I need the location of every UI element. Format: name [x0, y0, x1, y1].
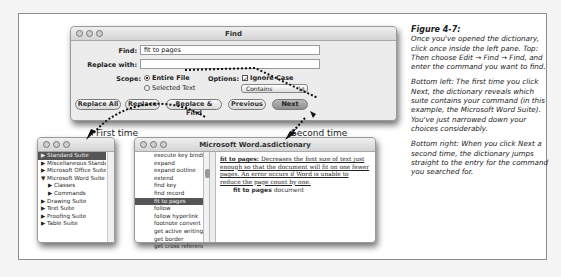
command-item[interactable]: get active writing s: [135, 228, 203, 236]
command-item[interactable]: find record: [135, 190, 203, 198]
caption-title: Figure 4-7:: [411, 25, 551, 34]
command-signature: fit to pages document: [233, 186, 304, 193]
zoom-icon[interactable]: [96, 30, 103, 37]
dictionary-entry: fit to pages: Decreases the font size of…: [220, 155, 370, 186]
dict-titlebar: Microsoft Word.asdictionary: [135, 138, 375, 152]
callout-first-time: First time: [96, 128, 138, 138]
suite-item[interactable]: ▼ Microsoft Word Suite: [38, 175, 106, 183]
zoom-icon[interactable]: [160, 141, 167, 148]
suite-item[interactable]: ▶ Text Suite: [38, 205, 106, 213]
command-list: execute key binding expand expand outlin…: [135, 152, 203, 242]
suite-item[interactable]: ▶ Proofing Suite: [38, 213, 106, 221]
previous-button[interactable]: Previous: [228, 99, 266, 110]
replace-label: Replace with:: [75, 61, 137, 69]
find-input[interactable]: fit to pages: [140, 45, 320, 55]
close-icon[interactable]: [76, 30, 83, 37]
suite-item[interactable]: ▶ Miscellaneous Standards: [38, 160, 106, 168]
zoom-icon[interactable]: [63, 141, 70, 148]
caption-paragraph: Bottom right: When you click Next a seco…: [411, 139, 551, 176]
dictionary-window: Microsoft Word.asdictionary execute key …: [134, 137, 376, 243]
radio-off-icon: [144, 85, 150, 91]
suite-titlebar: [38, 138, 114, 152]
radio-on-icon: [144, 75, 150, 81]
command-item[interactable]: follow: [135, 205, 203, 213]
figure-caption: Figure 4-7: Once you've opened the dicti…: [411, 25, 551, 182]
popup-arrows-icon: ⇕: [299, 86, 306, 92]
suite-item[interactable]: ▶ Classes: [38, 182, 106, 190]
command-item-selected[interactable]: fit to pages: [135, 198, 203, 206]
options-label: Options:: [199, 75, 239, 83]
command-scrollbar[interactable]: [203, 152, 210, 242]
callout-second-time: Second time: [291, 128, 347, 138]
caption-paragraph: Once you've opened the dictionary, click…: [411, 34, 551, 71]
command-item[interactable]: extend: [135, 175, 203, 183]
scope-selected-text[interactable]: Selected Text: [144, 84, 195, 92]
scope-label: Scope:: [111, 75, 141, 83]
checkmark-icon: ✓: [242, 75, 248, 81]
replace-button[interactable]: Replace: [125, 99, 160, 110]
replace-and-find-button[interactable]: Replace & Find: [166, 99, 222, 110]
command-item[interactable]: expand outline: [135, 167, 203, 175]
command-item[interactable]: get cross reference: [135, 243, 203, 251]
minimize-icon[interactable]: [53, 141, 60, 148]
minimize-icon[interactable]: [86, 30, 93, 37]
ignore-case-checkbox[interactable]: ✓Ignore Case: [242, 74, 293, 82]
find-dialog: Find Find: fit to pages Replace with: Sc…: [70, 26, 397, 121]
dict-title: Microsoft Word.asdictionary: [199, 141, 311, 149]
scope-entire-file[interactable]: Entire File: [144, 74, 190, 82]
command-item[interactable]: follow hyperlink: [135, 213, 203, 221]
pane-splitter[interactable]: [210, 152, 216, 242]
close-icon[interactable]: [43, 141, 50, 148]
replace-all-button[interactable]: Replace All: [75, 99, 121, 110]
next-button[interactable]: Next: [272, 99, 308, 110]
suite-item[interactable]: ▶ Table Suite: [38, 220, 106, 228]
find-title: Find: [225, 30, 242, 38]
command-item[interactable]: execute key binding: [135, 152, 203, 160]
suite-item[interactable]: ▶ Drawing Suite: [38, 198, 106, 206]
command-item[interactable]: get border: [135, 236, 203, 244]
suite-window: ▶ Standard Suite ▶ Miscellaneous Standar…: [37, 137, 115, 243]
replace-input[interactable]: [140, 59, 320, 69]
suite-splitter[interactable]: [107, 152, 114, 242]
minimize-icon[interactable]: [150, 141, 157, 148]
suite-list: ▶ Standard Suite ▶ Miscellaneous Standar…: [38, 152, 114, 228]
suite-item[interactable]: ▶ Commands: [38, 190, 106, 198]
suite-item[interactable]: ▶ Standard Suite: [38, 152, 106, 160]
match-popup[interactable]: Contains ⇕: [241, 84, 308, 93]
find-titlebar: Find: [71, 27, 396, 41]
command-item[interactable]: footnote convert: [135, 220, 203, 228]
close-icon[interactable]: [140, 141, 147, 148]
find-label: Find:: [81, 47, 137, 55]
command-item[interactable]: find key: [135, 182, 203, 190]
command-item[interactable]: expand: [135, 160, 203, 168]
suite-item[interactable]: ▶ Microsoft Office Suite: [38, 167, 106, 175]
caption-paragraph: Bottom left: The first time you click Ne…: [411, 77, 551, 133]
